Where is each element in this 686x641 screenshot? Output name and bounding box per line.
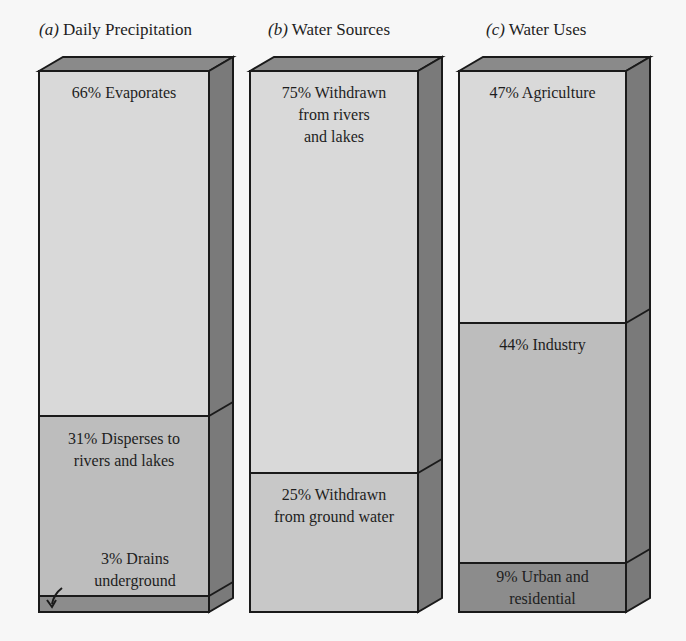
label-line: 47% Agriculture — [459, 82, 626, 104]
panel-b-title-text: Water Sources — [292, 20, 390, 39]
bar-a-side-face — [209, 57, 233, 612]
bar-c-label-agriculture: 47% Agriculture — [459, 82, 626, 104]
label-line: and lakes — [250, 126, 418, 148]
bar-c-label-industry: 44% Industry — [459, 334, 626, 356]
label-line: 9% Urban and — [459, 566, 626, 588]
panel-c-letter: (c) — [486, 20, 505, 39]
bar-a-label-evaporates: 66% Evaporates — [39, 82, 209, 104]
label-line: 31% Disperses to — [39, 428, 209, 450]
bar-b-side-face — [418, 57, 442, 612]
bar-a-label-disperses: 31% Disperses to rivers and lakes — [39, 428, 209, 472]
label-line: 75% Withdrawn — [250, 82, 418, 104]
panel-a-title-text: Daily Precipitation — [63, 20, 192, 39]
bar-c-side-face — [626, 57, 650, 612]
panel-a-letter: (a) — [39, 20, 59, 39]
bar-c-label-urban: 9% Urban and residential — [459, 566, 626, 610]
panel-c-title: (c) Water Uses — [486, 20, 586, 40]
panel-b-letter: (b) — [268, 20, 288, 39]
label-line: 3% Drains — [62, 548, 208, 570]
label-line: residential — [459, 588, 626, 610]
label-line: 66% Evaporates — [39, 82, 209, 104]
panel-a-title: (a) Daily Precipitation — [39, 20, 192, 40]
bar-a-segment-drains — [39, 596, 209, 612]
bar-c-segment-agriculture — [459, 71, 626, 323]
bar-b-label-rivers-lakes: 75% Withdrawn from rivers and lakes — [250, 82, 418, 148]
bar-c-top-face — [459, 57, 650, 71]
bar-a-daily-precipitation — [39, 57, 233, 612]
label-line: from ground water — [250, 506, 418, 528]
label-line: 25% Withdrawn — [250, 484, 418, 506]
panel-b-title: (b) Water Sources — [268, 20, 390, 40]
bar-a-label-drains: 3% Drains underground — [62, 548, 208, 592]
bar-b-label-ground-water: 25% Withdrawn from ground water — [250, 484, 418, 528]
label-line: underground — [62, 570, 208, 592]
bar-a-segment-evaporates — [39, 71, 209, 416]
label-line: 44% Industry — [459, 334, 626, 356]
panel-c-title-text: Water Uses — [509, 20, 586, 39]
bar-a-top-face — [39, 57, 233, 71]
bar-b-top-face — [250, 57, 442, 71]
bar-c-segment-industry — [459, 323, 626, 563]
label-line: rivers and lakes — [39, 450, 209, 472]
label-line: from rivers — [250, 104, 418, 126]
